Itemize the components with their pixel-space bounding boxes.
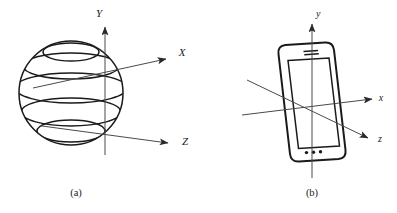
- home-button-dots: [305, 150, 322, 154]
- z-axis-label: Z: [182, 135, 189, 147]
- sphere-globe: [15, 41, 127, 145]
- x-axis-line: [242, 99, 372, 115]
- home-button-dot-3: [319, 150, 322, 153]
- panel-b: y x z (b): [242, 8, 384, 199]
- sphere-outline: [19, 41, 123, 145]
- y-axis-label: Y: [96, 7, 104, 19]
- latitude-line-5: [37, 120, 105, 142]
- panel-a-caption: (a): [70, 187, 82, 199]
- panel-a-x-axis: X: [33, 46, 187, 88]
- home-button-dot-1: [305, 151, 308, 154]
- z-axis-line: [247, 80, 368, 138]
- y-axis-label: y: [315, 8, 321, 19]
- panel-a: Y X Z (a): [15, 7, 189, 199]
- z-axis-label: z: [377, 133, 382, 144]
- latitude-line-1: [43, 43, 99, 61]
- figure-container: Y X Z (a): [0, 0, 397, 213]
- earpiece-speaker-icon: [304, 51, 319, 52]
- x-axis-label: X: [178, 46, 187, 58]
- figure-canvas: Y X Z (a): [0, 0, 397, 213]
- x-axis-label: x: [378, 92, 384, 103]
- panel-b-caption: (b): [306, 187, 319, 199]
- latitude-line-4: [21, 98, 121, 126]
